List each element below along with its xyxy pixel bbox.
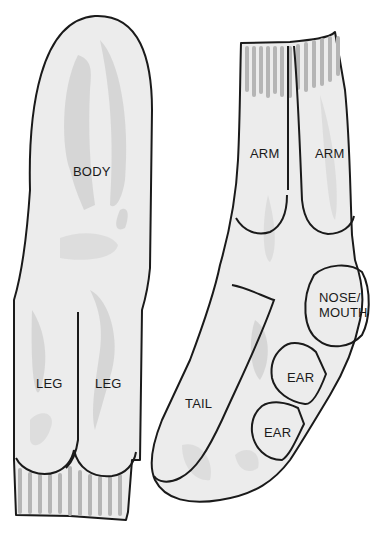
label-leg-left: LEG — [36, 376, 63, 391]
label-body: BODY — [73, 164, 111, 179]
label-nose-mouth-line2: MOUTH — [319, 305, 368, 320]
label-nose-mouth-line1: NOSE/ — [319, 290, 361, 305]
label-ear-upper: EAR — [287, 370, 314, 385]
label-ear-lower: EAR — [264, 425, 291, 440]
sock-pattern-diagram: BODY LEG LEG — [0, 0, 390, 558]
label-arm-left: ARM — [250, 146, 280, 161]
label-leg-right: LEG — [95, 376, 122, 391]
label-tail: TAIL — [185, 396, 212, 411]
left-sock: BODY LEG LEG — [14, 16, 152, 520]
right-sock: ARM ARM NOSE/ MOUTH TAIL EAR EAR — [151, 32, 368, 502]
label-arm-right: ARM — [315, 146, 345, 161]
